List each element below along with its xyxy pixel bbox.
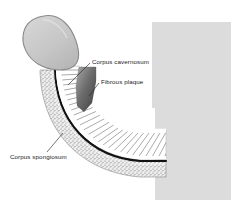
anatomy-diagram	[0, 0, 244, 213]
leader-corpus-spongiosum	[47, 133, 63, 152]
glans-shape	[23, 15, 79, 70]
label-corpus-spongiosum: Corpus spongiosum	[10, 154, 67, 160]
label-fibrous-plaque: Fibrous plaque	[101, 79, 143, 85]
label-corpus-cavernosum: Corpus cavernosum	[92, 59, 149, 65]
illustration-canvas: Corpus cavernosum Fibrous plaque Corpus …	[0, 0, 244, 213]
